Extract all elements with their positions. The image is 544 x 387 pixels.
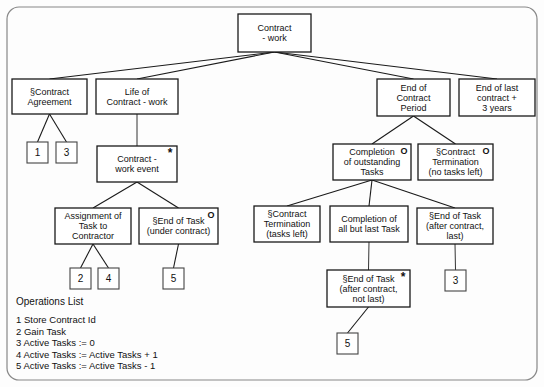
node-agreement[interactable]: §ContractAgreement <box>12 79 87 114</box>
node-label-line: contract + <box>477 93 517 103</box>
node-label-line: Completion of <box>341 214 397 224</box>
node-label-line: Tasks <box>360 167 384 177</box>
node-completion[interactable]: Completionof outstandingTasksO <box>333 144 411 180</box>
node-endtasklast[interactable]: §End of Task(after contract,last) <box>417 208 493 244</box>
legend-title: Operations List <box>16 296 83 307</box>
node-label-line: - work <box>262 33 287 43</box>
node-label-line: Completion <box>349 147 395 157</box>
entity-life-history-diagram: Contract- work§ContractAgreementLife ofC… <box>0 0 544 387</box>
operation-number: 4 <box>106 273 112 284</box>
operation-number: 1 <box>35 147 41 158</box>
operation-box-op-3b[interactable]: 3 <box>445 270 466 291</box>
node-label-line: (under contract) <box>147 226 211 236</box>
node-label-line: End of last <box>476 83 519 93</box>
node-label-line: §End of Task <box>343 274 395 284</box>
legend-item: 2 Gain Task <box>16 326 66 337</box>
diagram-page: Contract- work§ContractAgreementLife ofC… <box>0 0 544 387</box>
operation-number: 3 <box>453 275 459 286</box>
node-label-line: all but last Task <box>338 224 400 234</box>
operation-box-op-1[interactable]: 1 <box>27 142 48 163</box>
node-label-line: Contract <box>396 93 431 103</box>
operation-box-op-2[interactable]: 2 <box>70 268 91 289</box>
connector-complallbut-to-endtasknl <box>369 242 370 270</box>
node-life[interactable]: Life ofContract - work <box>96 79 178 114</box>
operation-number: 2 <box>78 273 84 284</box>
node-label-line: §Contract <box>30 87 70 97</box>
node-label-line: Assignment of <box>64 211 122 221</box>
operation-box-op-5b[interactable]: 5 <box>337 333 358 354</box>
iteration-marker-icon: * <box>401 270 406 284</box>
operation-box-op-3a[interactable]: 3 <box>56 142 77 163</box>
node-label-line: of outstanding <box>344 157 401 167</box>
iteration-marker-icon: * <box>168 146 173 160</box>
node-label-line: §End of Task <box>153 216 205 226</box>
connector-endtasklast-to-op-3b <box>455 244 456 270</box>
operation-number: 3 <box>64 147 70 158</box>
node-label-line: Contractor <box>72 231 114 241</box>
node-assignment[interactable]: Assignment ofTask toContractor <box>55 208 131 244</box>
node-label-line: last) <box>446 231 463 241</box>
selection-marker-icon: O <box>400 146 407 156</box>
node-label-line: (after contract, <box>339 284 397 294</box>
node-label-line: (no tasks left) <box>428 167 482 177</box>
node-workevent[interactable]: Contract -work event* <box>97 146 177 182</box>
node-endtaskuc[interactable]: §End of Task(under contract)O <box>139 208 218 244</box>
node-complallbut[interactable]: Completion ofall but last Task <box>330 206 408 242</box>
node-label-line: Period <box>400 103 426 113</box>
node-label-line: Agreement <box>27 97 72 107</box>
node-label-line: §Contract <box>267 209 307 219</box>
node-label-line: Task to <box>79 221 108 231</box>
node-label-line: Contract - work <box>106 97 168 107</box>
legend-item: 4 Active Tasks := Active Tasks + 1 <box>16 349 158 360</box>
node-label-line: work event <box>114 164 159 174</box>
node-label-line: Contract - <box>117 154 157 164</box>
operation-number: 5 <box>345 338 351 349</box>
node-termtasks[interactable]: §ContractTermination(tasks left) <box>254 206 320 242</box>
node-label-line: §End of Task <box>429 211 481 221</box>
selection-marker-icon: O <box>482 146 489 156</box>
node-termnotasks[interactable]: §ContractTermination(no tasks left)O <box>418 144 493 180</box>
node-label-line: Contract <box>257 23 292 33</box>
node-endlast[interactable]: End of lastcontract +3 years <box>459 79 535 116</box>
node-label-line: End of <box>400 83 427 93</box>
selection-marker-icon: O <box>207 210 214 220</box>
node-label-line: 3 years <box>482 103 512 113</box>
node-label-line: (tasks left) <box>266 229 308 239</box>
legend-item: 3 Active Tasks := 0 <box>16 337 95 348</box>
node-endtasknl[interactable]: §End of Task(after contract,not last)* <box>327 270 410 307</box>
node-label-line: not last) <box>352 294 384 304</box>
operation-number: 5 <box>171 273 177 284</box>
node-label-line: §Contract <box>436 147 476 157</box>
node-root[interactable]: Contract- work <box>238 14 311 52</box>
node-endperiod[interactable]: End ofContractPeriod <box>377 79 450 116</box>
node-label-line: Termination <box>432 157 479 167</box>
legend-item: 1 Store Contract Id <box>16 314 96 325</box>
operation-box-op-5a[interactable]: 5 <box>163 268 184 289</box>
operation-box-op-4[interactable]: 4 <box>98 268 119 289</box>
node-label-line: Termination <box>264 219 311 229</box>
node-label-line: Life of <box>125 87 150 97</box>
legend-item: 5 Active Tasks := Active Tasks - 1 <box>16 360 155 371</box>
node-label-line: (after contract, <box>426 221 484 231</box>
